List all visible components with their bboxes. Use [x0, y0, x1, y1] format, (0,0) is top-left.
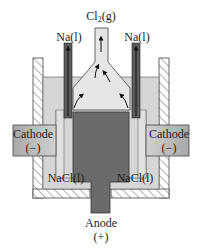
sodium-label-right: Na(l) — [124, 31, 149, 43]
cathode-label-left: Cathode — [13, 128, 53, 140]
cathode-sign-left: (−) — [26, 142, 41, 154]
anode-label: Anode — [85, 217, 117, 229]
cathode-label-right: Cathode — [149, 128, 189, 140]
electrolyte-label-left: NaCl(l) — [48, 172, 85, 184]
sodium-tube-right — [132, 43, 140, 128]
sodium-label-left: Na(l) — [56, 31, 81, 43]
cathode-sign-right: (−) — [162, 142, 177, 154]
anode-sign: (+) — [94, 231, 109, 243]
downs-cell-diagram — [0, 0, 203, 249]
sodium-tube-left — [64, 43, 72, 128]
electrolyte-label-right: NaCl(l) — [117, 172, 154, 184]
chlorine-gas-label: Cl2(g) — [86, 10, 115, 26]
